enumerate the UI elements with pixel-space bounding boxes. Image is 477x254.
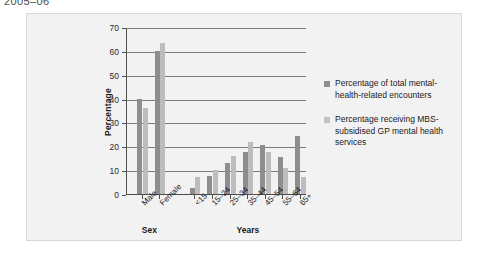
bar bbox=[155, 51, 160, 194]
bar bbox=[195, 177, 200, 194]
y-axis-tick-label: 60 bbox=[110, 47, 119, 57]
bar bbox=[207, 176, 212, 194]
y-axis-tick-label: 70 bbox=[110, 23, 119, 33]
bar bbox=[190, 188, 195, 194]
legend-item: Percentage receiving MBS-subsidised GP m… bbox=[324, 114, 456, 149]
axis-group-title-years: Years bbox=[237, 225, 260, 235]
bar-group bbox=[260, 28, 271, 194]
bar bbox=[137, 99, 142, 194]
legend-item: Percentage of total mental-health-relate… bbox=[324, 78, 456, 101]
bar bbox=[160, 43, 165, 194]
y-axis-tick-label: 20 bbox=[110, 142, 119, 152]
bar-group bbox=[207, 28, 218, 194]
bar-group bbox=[155, 28, 166, 194]
plot-area: Percentage 010203040506070 MaleFemale<15… bbox=[126, 28, 306, 195]
bar-group bbox=[295, 28, 306, 194]
y-axis-tick bbox=[122, 123, 126, 124]
legend-swatch bbox=[324, 117, 330, 123]
y-axis-tick-label: 0 bbox=[114, 190, 119, 200]
chart-figure: Percentage 010203040506070 MaleFemale<15… bbox=[26, 13, 462, 241]
y-axis-tick bbox=[122, 147, 126, 148]
bar-group bbox=[243, 28, 254, 194]
bar bbox=[231, 156, 236, 194]
y-axis-tick-label: 50 bbox=[110, 71, 119, 81]
figure-caption: 2005–06 bbox=[4, 0, 50, 7]
bar bbox=[266, 152, 271, 194]
y-axis-tick bbox=[122, 76, 126, 77]
bar bbox=[143, 108, 148, 194]
bar bbox=[248, 142, 253, 194]
bar bbox=[213, 170, 218, 194]
y-axis-tick-label: 40 bbox=[110, 95, 119, 105]
legend-label: Percentage of total mental-health-relate… bbox=[335, 78, 456, 101]
y-axis-tick bbox=[122, 28, 126, 29]
axis-group-title-sex: Sex bbox=[142, 225, 157, 235]
y-axis-tick-label: 10 bbox=[110, 166, 119, 176]
bar-group bbox=[225, 28, 236, 194]
chart-legend: Percentage of total mental-health-relate… bbox=[324, 78, 456, 162]
y-axis-tick bbox=[122, 52, 126, 53]
legend-swatch bbox=[324, 81, 330, 87]
y-axis-tick-label: 30 bbox=[110, 118, 119, 128]
legend-label: Percentage receiving MBS-subsidised GP m… bbox=[335, 114, 456, 149]
y-axis-tick bbox=[122, 195, 126, 196]
y-axis-tick bbox=[122, 171, 126, 172]
y-axis-tick bbox=[122, 100, 126, 101]
bar-group bbox=[137, 28, 148, 194]
bar-group bbox=[278, 28, 289, 194]
bars-container bbox=[127, 28, 306, 194]
bar-group bbox=[190, 28, 201, 194]
